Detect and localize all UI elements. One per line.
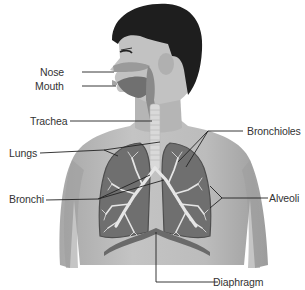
- label-bronchi: Bronchi: [9, 193, 44, 205]
- label-diaphragm: Diaphragm: [213, 276, 263, 288]
- label-nose: Nose: [40, 66, 64, 78]
- label-lungs: Lungs: [9, 147, 37, 159]
- label-bronchioles: Bronchioles: [247, 125, 301, 137]
- trachea-illustration: [150, 104, 160, 170]
- anatomy-illustration: [0, 0, 305, 290]
- head: [110, 4, 202, 120]
- respiratory-diagram: Nose Mouth Trachea Lungs Bronchi Bronchi…: [0, 0, 305, 290]
- label-mouth: Mouth: [35, 80, 64, 92]
- label-trachea: Trachea: [30, 115, 67, 127]
- label-alveoli: Alveoli: [269, 192, 299, 204]
